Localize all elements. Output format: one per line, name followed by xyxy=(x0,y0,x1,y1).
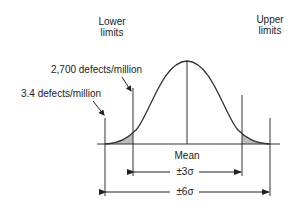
upper-limits-line1: Upper xyxy=(250,14,290,25)
upper-limits-line2: limits xyxy=(250,25,290,36)
lower-limits-label: Lower limits xyxy=(92,16,132,38)
pointer-3-4 xyxy=(93,101,104,115)
defects-2700-label: 2,700 defects/million xyxy=(51,64,142,75)
six-sigma-diagram: Lower limits Upper limits 2,700 defects/… xyxy=(0,0,295,209)
defects-3-4-label: 3.4 defects/million xyxy=(21,88,101,99)
lower-limits-line1: Lower xyxy=(92,16,132,27)
upper-limits-label: Upper limits xyxy=(250,14,290,36)
right-tail-shade xyxy=(242,134,270,144)
six-sigma-label: ±6σ xyxy=(170,186,200,197)
mean-label: Mean xyxy=(167,150,207,161)
pointer-2700 xyxy=(122,77,131,91)
lower-limits-line2: limits xyxy=(92,27,132,38)
three-sigma-label: ±3σ xyxy=(170,166,200,177)
